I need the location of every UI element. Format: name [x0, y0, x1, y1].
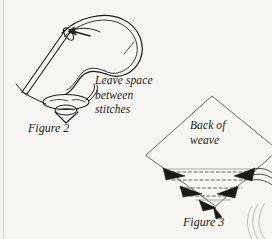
annotation-leave-space: Leave space between stitches — [95, 73, 153, 117]
corner-curls — [248, 203, 266, 239]
thread-strand-2 — [252, 174, 272, 183]
thread-wedges — [163, 168, 255, 219]
thread-wedge-right-1 — [234, 168, 255, 181]
weave-diamond — [146, 96, 272, 206]
thread-wedge-left-1 — [163, 168, 185, 180]
illustration-page: Leave space between stitches Back of wea… — [0, 0, 272, 239]
caption-figure-3: Figure 3 — [183, 215, 224, 230]
caption-figure-2: Figure 2 — [28, 121, 69, 136]
corner-curl-3 — [259, 203, 265, 239]
figure-3-artwork — [0, 0, 272, 239]
thread-wedge-center — [199, 200, 216, 211]
corner-curl-1 — [248, 206, 253, 239]
corner-curl-2 — [253, 204, 258, 239]
thread-strand-3 — [252, 180, 272, 190]
annotation-back-of-weave: Back of weave — [190, 118, 226, 147]
